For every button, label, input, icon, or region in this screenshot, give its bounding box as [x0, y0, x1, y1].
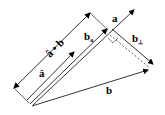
- a-hat-label: â: [39, 67, 45, 79]
- a-label: a: [112, 12, 118, 24]
- extension-line-left: [14, 88, 29, 103]
- b-parallel-label: ba: [84, 30, 93, 43]
- b-label: b: [106, 84, 112, 96]
- b-perp-label: b⊥: [132, 32, 143, 45]
- b-vector: [32, 70, 148, 106]
- diagram-canvas: â • b â ba a b⊥ b: [0, 0, 165, 115]
- extension-line-right: [90, 13, 108, 30]
- vector-diagram: â • b â ba a b⊥ b: [0, 0, 165, 115]
- dashed-projection-line: [110, 35, 150, 68]
